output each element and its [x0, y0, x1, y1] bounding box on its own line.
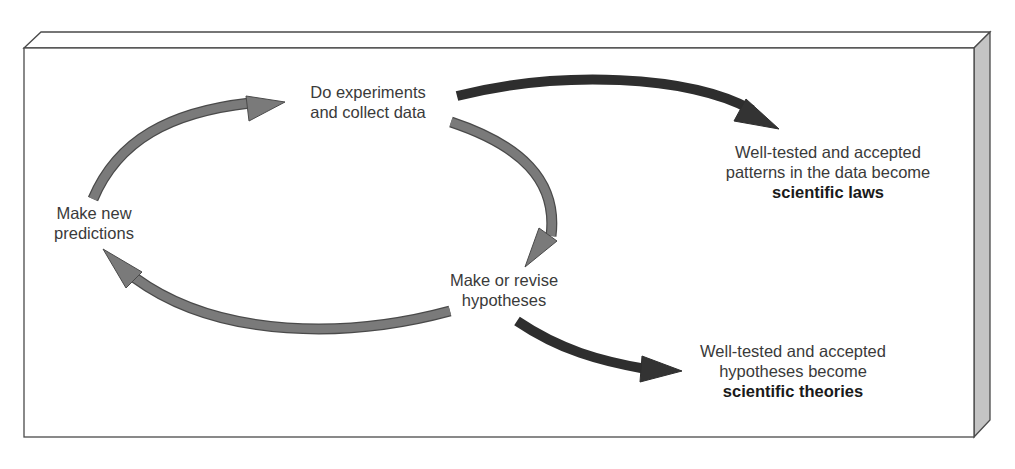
box-side-face [974, 32, 990, 437]
node-hypotheses-line1: Make or revise [432, 270, 576, 290]
node-predictions: Make new predictions [32, 203, 156, 243]
node-hypotheses: Make or revise hypotheses [432, 270, 576, 310]
node-laws-line1: Well-tested and accepted [690, 142, 966, 162]
node-laws-bold: scientific laws [690, 182, 966, 202]
node-experiments-line1: Do experiments [285, 82, 451, 102]
node-hypotheses-line2: hypotheses [432, 290, 576, 310]
node-theories: Well-tested and accepted hypotheses beco… [662, 341, 924, 401]
node-theories-bold: scientific theories [662, 381, 924, 401]
node-laws-line2: patterns in the data become [690, 162, 966, 182]
node-laws: Well-tested and accepted patterns in the… [690, 142, 966, 202]
node-experiments: Do experiments and collect data [285, 82, 451, 122]
node-predictions-line2: predictions [32, 223, 156, 243]
box-top-face [24, 32, 990, 48]
node-predictions-line1: Make new [32, 203, 156, 223]
node-experiments-line2: and collect data [285, 102, 451, 122]
node-theories-line1: Well-tested and accepted [662, 341, 924, 361]
node-theories-line2: hypotheses become [662, 361, 924, 381]
